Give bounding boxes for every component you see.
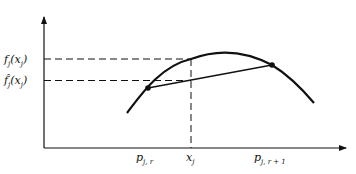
interpolation-chord [148,65,272,88]
interpolation-diagram: fj(xj) f̂j(xj) pj, r xj pj, r + 1 [0,0,356,174]
point-p-j-r [145,85,151,91]
label-x-j: xj [186,151,195,166]
label-p-j-r-plus-1: pj, r + 1 [254,151,286,166]
point-p-j-r-plus-1 [269,62,275,68]
function-curve [127,53,314,113]
label-f-j-x-j: fj(xj) [3,53,27,68]
label-f-hat-j-x-j: f̂j(xj) [3,74,27,89]
label-p-j-r: pj, r [136,151,154,166]
